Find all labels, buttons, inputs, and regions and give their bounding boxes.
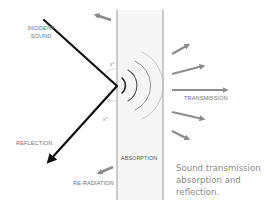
reflection-arrow-top [96, 15, 111, 20]
angle-incident-label: x° [110, 63, 114, 68]
incident-label-line1: INCIDENT [22, 25, 60, 33]
reradiation-label: RE-RADIATION [73, 181, 114, 187]
absorption-label: ABSORPTION [121, 156, 157, 161]
transmission-arrows [172, 45, 226, 139]
caption-line2: absorption and [176, 174, 265, 186]
reradiation-arrow [99, 167, 113, 173]
caption-line3: reflection. [176, 186, 265, 198]
incident-sound-label: INCIDENT SOUND [22, 25, 60, 40]
incident-label-line2: SOUND [22, 33, 60, 41]
caption: Sound transmission absorption and reflec… [176, 162, 265, 198]
transmission-label: TRANSMISSION [184, 96, 228, 102]
angle-reflected-label: x° [103, 118, 107, 123]
reflection-label: REFLECTION [16, 141, 52, 147]
reflected-ray [50, 86, 117, 160]
wall [117, 10, 163, 200]
caption-line1: Sound transmission [176, 162, 265, 174]
